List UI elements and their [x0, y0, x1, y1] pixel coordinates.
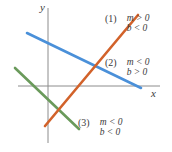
line-3-intercept-text: b < 0 — [100, 128, 123, 138]
line-1-marker: (1) — [105, 14, 117, 25]
line-2-marker: (2) — [105, 58, 117, 69]
annotation-line-3: (3) m < 0 b < 0 — [78, 118, 122, 138]
line-2-intercept-text: b > 0 — [127, 68, 150, 78]
y-axis-label: y — [40, 2, 45, 14]
annotation-line-1: (1) m > 0 b < 0 — [105, 14, 149, 34]
line-slope-intercept-diagram: y x (1) m > 0 b < 0 (2) m < 0 b > 0 (3) … — [0, 0, 172, 152]
line-3-marker: (3) — [78, 118, 90, 129]
x-axis-label: x — [151, 88, 156, 100]
line-1-intercept-text: b < 0 — [127, 24, 150, 34]
annotation-line-2: (2) m < 0 b > 0 — [105, 58, 149, 78]
